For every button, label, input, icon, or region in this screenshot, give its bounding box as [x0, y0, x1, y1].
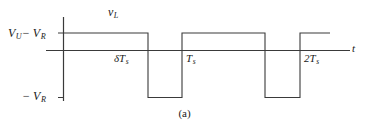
- tick-label-delta-ts: δTs: [114, 53, 129, 65]
- waveform-trace: [64, 33, 331, 98]
- low-level-label: − VR: [22, 90, 46, 104]
- waveform-figure: vL VU− VR − VR δTs Ts 2Ts t (a): [0, 0, 369, 128]
- tick-label-ts: Ts: [186, 53, 196, 65]
- figure-caption: (a): [0, 108, 369, 119]
- y-axis-label: vL: [108, 6, 118, 20]
- tick-label-2ts: 2Ts: [304, 53, 319, 65]
- high-level-label: VU− VR: [8, 27, 46, 41]
- x-axis-label: t: [352, 43, 355, 54]
